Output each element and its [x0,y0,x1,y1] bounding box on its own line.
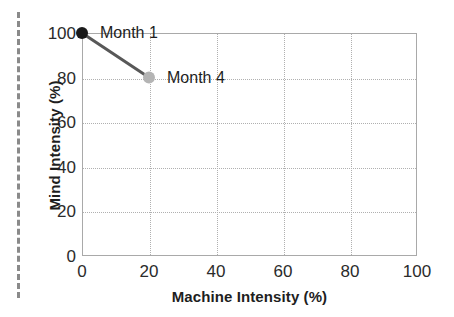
gridline-horizontal [83,212,416,213]
x-tick-label: 40 [207,263,226,280]
gridline-vertical [217,34,218,255]
gridline-vertical [150,34,151,255]
gridline-vertical [284,34,285,255]
page-edge-dashed-rule [17,12,20,298]
x-axis-title: Machine Intensity (%) [82,288,417,305]
x-tick-label: 80 [341,263,360,280]
plot-area [82,33,417,256]
gridline-horizontal [83,123,416,124]
data-point-label: Month 1 [100,25,158,41]
x-tick-label: 0 [77,263,86,280]
chart-figure: 020406080100 020406080100 Mind Intensity… [0,0,454,317]
y-axis-title: Mind Intensity (%) [46,34,63,257]
gridline-horizontal [83,79,416,80]
x-tick-label: 60 [274,263,293,280]
x-axis-tick-labels: 020406080100 [0,263,454,287]
x-tick-label: 100 [403,263,431,280]
gridline-vertical [351,34,352,255]
data-point-label: Month 4 [167,70,225,86]
gridline-horizontal [83,168,416,169]
x-tick-label: 20 [140,263,159,280]
